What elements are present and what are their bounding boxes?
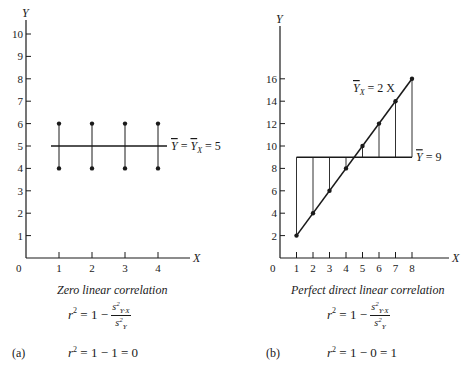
y-tick-label: 6 — [272, 185, 278, 197]
data-point — [123, 121, 127, 125]
formula-result: = 1 − 0 = 1 — [336, 345, 397, 360]
data-point — [57, 121, 61, 125]
x-tick-label: 1 — [294, 262, 300, 274]
formula-result: = 1 − 1 = 0 — [77, 345, 138, 360]
panel-a-caption: Zero linear correlation — [57, 283, 167, 298]
y-tick-label: 2 — [18, 207, 24, 219]
data-point — [57, 166, 61, 170]
x-tick-label: 3 — [327, 262, 333, 274]
regression-line-label: YX = 2 X — [353, 81, 395, 97]
panel-a-formula-1: r2 = 1 − s2Y·X s2Y — [68, 300, 131, 332]
y-tick-label: 12 — [266, 118, 277, 130]
x-tick-label: 4 — [155, 262, 161, 274]
x-tick-label: 3 — [122, 262, 128, 274]
panel-a-chart: YX0123456789101234Y = YX = 5 — [12, 6, 221, 274]
data-point — [344, 166, 348, 170]
data-point — [377, 121, 381, 125]
y-tick-label: 5 — [18, 140, 24, 152]
x-axis-title: X — [451, 251, 460, 265]
data-point — [90, 121, 94, 125]
panel-b-label: (b) — [266, 346, 280, 361]
origin-label: 0 — [16, 262, 22, 274]
regression-line-label: Y = YX = 5 — [171, 139, 221, 155]
x-tick-label: 4 — [343, 262, 349, 274]
y-tick-label: 9 — [18, 50, 24, 62]
y-tick-label: 10 — [266, 140, 278, 152]
variance-ratio: s2Y·X s2Y — [370, 300, 389, 332]
x-tick-label: 2 — [310, 262, 316, 274]
panel-b-formula-1: r2 = 1 − s2Y·X s2Y — [327, 300, 390, 332]
panel-b-chart: YX024681012141612345678YX = 2 XY = 9 — [266, 12, 460, 274]
data-point — [360, 144, 364, 148]
x-tick-label: 6 — [376, 262, 382, 274]
data-point — [327, 189, 331, 193]
variance-ratio: s2Y·X s2Y — [111, 300, 130, 332]
y-axis-title: Y — [22, 6, 30, 20]
x-axis-title: X — [192, 251, 201, 265]
y-tick-label: 8 — [272, 162, 278, 174]
y-tick-label: 3 — [18, 185, 24, 197]
x-tick-label: 8 — [409, 262, 415, 274]
data-point — [156, 121, 160, 125]
panel-a-formula-2: r2 = 1 − 1 = 0 — [68, 345, 138, 361]
y-tick-label: 4 — [18, 162, 24, 174]
panel-b-formula-2: r2 = 1 − 0 = 1 — [327, 345, 397, 361]
data-point — [393, 99, 397, 103]
y-axis-title: Y — [276, 12, 284, 26]
data-point — [311, 211, 315, 215]
y-tick-label: 8 — [18, 73, 24, 85]
y-tick-label: 2 — [272, 230, 278, 242]
data-point — [123, 166, 127, 170]
mean-line-label: Y = 9 — [416, 150, 441, 164]
y-tick-label: 6 — [18, 118, 24, 130]
y-tick-label: 14 — [266, 95, 278, 107]
data-point — [156, 166, 160, 170]
x-tick-label: 2 — [89, 262, 95, 274]
data-point — [294, 233, 298, 237]
panel-a-label: (a) — [12, 346, 25, 361]
formula-rest: = 1 − — [336, 307, 370, 322]
x-tick-label: 1 — [56, 262, 62, 274]
panel-b-caption: Perfect direct linear correlation — [291, 283, 444, 298]
origin-label: 0 — [270, 262, 276, 274]
x-tick-label: 5 — [360, 262, 366, 274]
formula-rest: = 1 − — [77, 307, 111, 322]
y-tick-label: 16 — [266, 73, 278, 85]
data-point — [90, 166, 94, 170]
y-tick-label: 7 — [18, 95, 24, 107]
y-tick-label: 1 — [18, 230, 24, 242]
x-tick-label: 7 — [393, 262, 399, 274]
y-tick-label: 10 — [12, 28, 24, 40]
data-point — [410, 77, 414, 81]
y-tick-label: 4 — [272, 207, 278, 219]
